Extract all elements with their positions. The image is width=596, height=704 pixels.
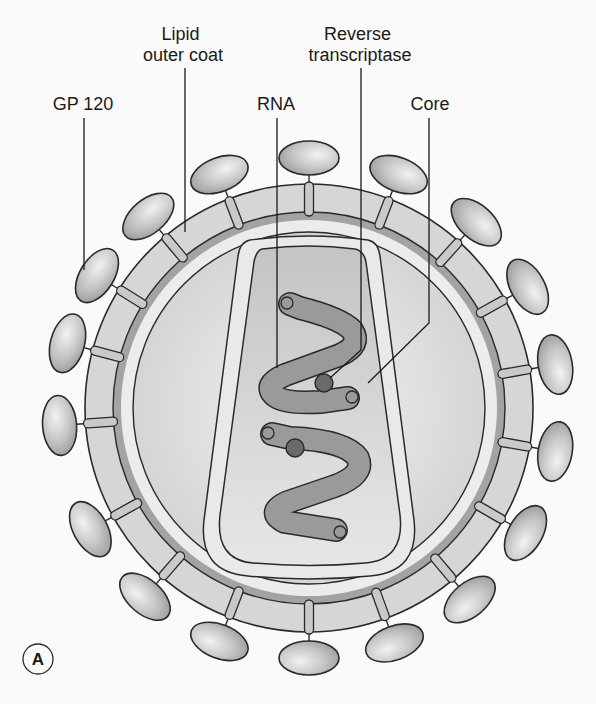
label-gp120: GP 120: [53, 94, 114, 114]
gp120-knob: [533, 419, 577, 484]
gp120-knob: [279, 641, 339, 675]
label-gp120-text: GP 120: [53, 94, 114, 114]
knob-connector: [454, 581, 458, 586]
knob-connector: [226, 619, 229, 626]
gp120-knob: [41, 394, 79, 456]
knob-connector: [460, 235, 465, 240]
label-rna: RNA: [257, 94, 295, 114]
label-core-text: Core: [410, 94, 449, 114]
knob-connector: [386, 620, 388, 627]
knob-connector: [226, 190, 229, 197]
knob-connector: [111, 285, 117, 289]
label-lipid-outer-coat: Lipid outer coat: [143, 24, 223, 65]
rna-strand-tip: [262, 427, 274, 439]
knob-connector: [505, 521, 511, 525]
label-rna-text: RNA: [257, 94, 295, 114]
knob-connector: [156, 579, 161, 584]
rna-strand-tip: [346, 391, 358, 403]
gp120-knob: [533, 332, 577, 397]
gp120-knob: [43, 310, 91, 377]
hiv-virion-diagram: GP 120 Lipid outer coat RNA Reverse tran…: [0, 0, 596, 704]
gp41-stalk: [305, 182, 314, 216]
label-lipid-line2: outer coat: [143, 45, 223, 65]
label-rt-line2: transcriptase: [308, 45, 411, 65]
rna-strand-tip: [334, 526, 346, 538]
panel-badge: A: [23, 644, 53, 674]
diagram-canvas: GP 120 Lipid outer coat RNA Reverse tran…: [0, 0, 596, 704]
gp41-stalk: [305, 600, 314, 634]
knob-connector: [159, 230, 163, 235]
label-core: Core: [410, 94, 449, 114]
knob-connector: [532, 447, 539, 448]
gp120-knob: [360, 617, 428, 669]
knob-connector: [105, 518, 111, 521]
label-reverse-transcriptase: Reverse transcriptase: [308, 24, 411, 65]
panel-letter: A: [32, 650, 44, 669]
knob-connector: [507, 295, 513, 298]
gp120-knob: [279, 141, 339, 175]
label-rt-line1: Reverse: [324, 24, 391, 44]
knob-connector: [84, 348, 91, 350]
reverse-transcriptase-dot: [286, 439, 304, 457]
gp41-stalk: [83, 417, 118, 428]
knob-connector: [390, 190, 393, 197]
knob-connector: [532, 368, 539, 369]
label-lipid-line1: Lipid: [161, 24, 199, 44]
rna-strand-tip: [281, 297, 293, 309]
reverse-transcriptase-dot: [315, 374, 333, 392]
